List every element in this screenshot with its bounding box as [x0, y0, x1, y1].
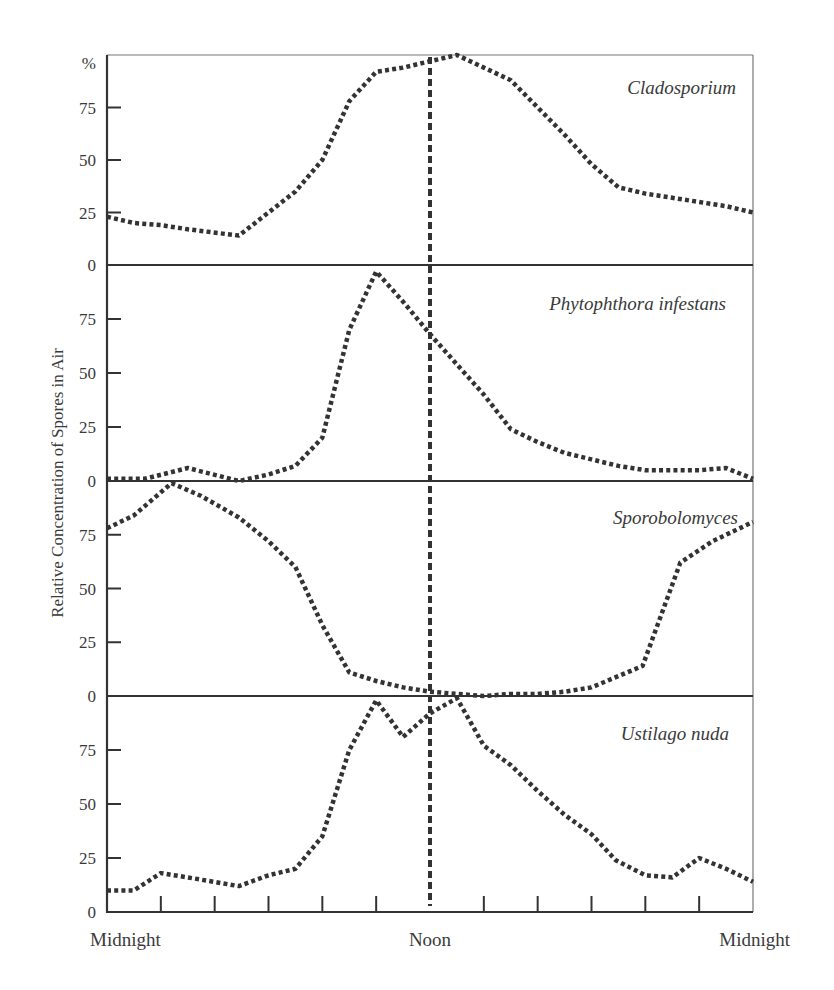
y-tick-label: 75: [79, 741, 96, 760]
y-unit-label: %: [82, 54, 96, 73]
x-tick-label: Midnight: [719, 929, 790, 950]
y-tick-label: 50: [79, 151, 96, 170]
axis-labels: 0255075%025507502550750255075MidnightNoo…: [79, 54, 791, 950]
y-tick-label: 0: [88, 256, 97, 275]
y-tick-label: 50: [79, 364, 96, 383]
spore-concentration-chart: 0255075%025507502550750255075MidnightNoo…: [0, 0, 834, 990]
panel-title: Sporobolomyces: [613, 507, 738, 528]
y-tick-label: 50: [79, 795, 96, 814]
panel-title: Phytophthora infestans: [548, 293, 726, 314]
y-tick-label: 0: [88, 903, 97, 922]
y-tick-label: 0: [88, 687, 97, 706]
panel-title: Ustilago nuda: [621, 723, 729, 744]
y-tick-label: 25: [79, 204, 96, 223]
y-tick-label: 50: [79, 580, 96, 599]
x-tick-label: Noon: [409, 929, 452, 950]
y-tick-label: 75: [79, 99, 96, 118]
y-tick-label: 25: [79, 849, 96, 868]
y-axis-title: Relative Concentration of Spores in Air: [48, 348, 67, 618]
y-tick-label: 25: [79, 633, 96, 652]
y-tick-label: 0: [88, 472, 97, 491]
y-tick-label: 25: [79, 418, 96, 437]
y-tick-label: 75: [79, 526, 96, 545]
y-tick-label: 75: [79, 310, 96, 329]
x-tick-label: Midnight: [90, 929, 161, 950]
panel-title: Cladosporium: [627, 77, 736, 98]
